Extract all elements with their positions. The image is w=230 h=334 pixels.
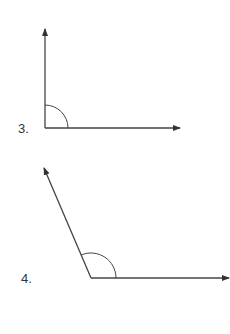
angle-3-arc [45, 105, 68, 128]
angle-4-arc [81, 253, 116, 278]
angle-3 [45, 29, 180, 128]
figure-label-4: 4. [21, 272, 32, 285]
angle-4-slanted-ray [44, 168, 91, 278]
angle-diagrams [0, 0, 230, 334]
angle-4 [44, 168, 229, 278]
figure-label-3: 3. [18, 122, 29, 135]
